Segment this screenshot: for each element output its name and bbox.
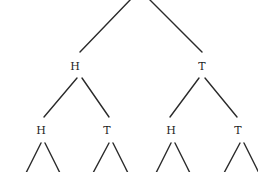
edge-tt-t <box>244 143 258 172</box>
edge-ht-t <box>113 143 128 172</box>
edge-t-t <box>205 78 237 117</box>
node-level1-h: H <box>70 61 80 72</box>
edge-h-h <box>44 78 77 117</box>
node-level2-ht: T <box>103 125 110 136</box>
node-level2-th: H <box>166 125 176 136</box>
edge-th-h <box>156 143 171 172</box>
edge-th-t <box>175 143 190 172</box>
edge-root-h <box>80 0 131 52</box>
edge-ht-h <box>93 143 109 172</box>
tree-edges <box>0 0 258 172</box>
edge-root-t <box>149 0 202 52</box>
edge-tt-h <box>224 143 240 172</box>
edge-t-h <box>170 78 199 117</box>
node-level2-hh: H <box>36 125 46 136</box>
node-level2-tt: T <box>234 125 241 136</box>
edge-hh-h <box>26 143 41 172</box>
edge-hh-t <box>45 143 60 172</box>
node-level1-t: T <box>198 61 205 72</box>
edge-h-t <box>82 78 109 117</box>
